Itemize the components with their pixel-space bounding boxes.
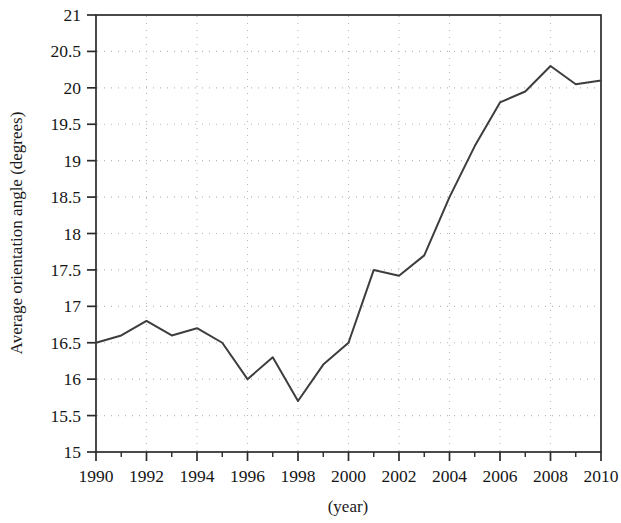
y-tick-label: 19.5 [50,114,81,134]
x-tick-label: 1996 [230,466,265,486]
x-tick-label: 2000 [331,466,366,486]
x-tick-label: 1998 [281,466,316,486]
y-tick-label: 19 [64,151,82,171]
y-tick-label: 17.5 [50,260,81,280]
chart-figure: 1515.51616.51717.51818.51919.52020.521 1… [0,0,621,523]
x-axis-tick-labels: 1990199219941996199820002002200420062008… [79,466,619,486]
x-tick-label: 2008 [533,466,568,486]
x-axis-label: (year) [328,497,369,516]
y-axis-label: Average orientation angle (degrees) [7,112,26,355]
x-tick-label: 1990 [79,466,114,486]
y-tick-label: 16.5 [50,333,81,353]
y-tick-label: 21 [64,5,82,25]
line-chart: 1515.51616.51717.51818.51919.52020.521 1… [0,0,621,523]
y-tick-label: 18 [64,224,82,244]
y-tick-label: 20.5 [50,41,81,61]
x-tick-label: 2006 [483,466,518,486]
y-tick-label: 18.5 [50,187,81,207]
x-tick-label: 1992 [129,466,164,486]
x-tick-label: 2010 [584,466,619,486]
y-tick-label: 15.5 [50,406,81,426]
y-tick-label: 16 [64,369,82,389]
y-tick-label: 17 [64,296,82,316]
x-tick-label: 2002 [382,466,417,486]
x-tick-label: 2004 [432,466,467,486]
y-tick-label: 15 [64,442,82,462]
chart-background [0,0,621,523]
x-tick-label: 1994 [180,466,215,486]
y-tick-label: 20 [64,78,82,98]
